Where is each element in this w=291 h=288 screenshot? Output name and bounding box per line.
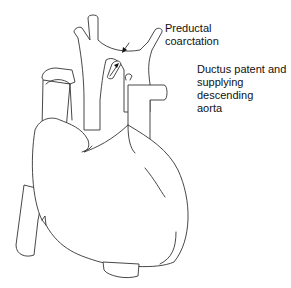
heart-diagram	[0, 0, 291, 288]
heart-body	[32, 118, 188, 266]
label-line: supplying descending	[197, 76, 291, 102]
bottom-vessel	[103, 262, 139, 278]
label-line: coarctation	[165, 35, 219, 48]
label-line: Preductal	[165, 22, 219, 35]
label-line: Ductus patent and	[197, 63, 291, 76]
label-ductus-patent: Ductus patent and supplying descending a…	[197, 63, 291, 115]
label-line: aorta	[197, 102, 291, 115]
label-preductal-coarctation: Preductal coarctation	[165, 22, 219, 48]
